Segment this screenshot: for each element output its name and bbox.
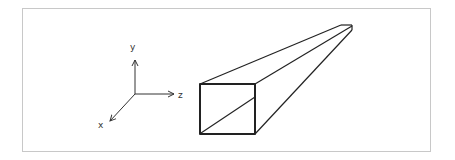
coordinate-axes: y z x <box>98 42 183 130</box>
beam-bottom-right-edge <box>255 30 352 134</box>
z-axis-label: z <box>178 90 183 100</box>
y-axis-label: y <box>130 42 136 52</box>
front-face-diagonal <box>201 97 255 133</box>
diagram-canvas: y z x <box>0 0 455 160</box>
x-axis-arrow <box>110 94 135 121</box>
beam-front-face <box>200 84 255 134</box>
x-axis-label: x <box>98 120 104 130</box>
beam <box>200 25 352 134</box>
